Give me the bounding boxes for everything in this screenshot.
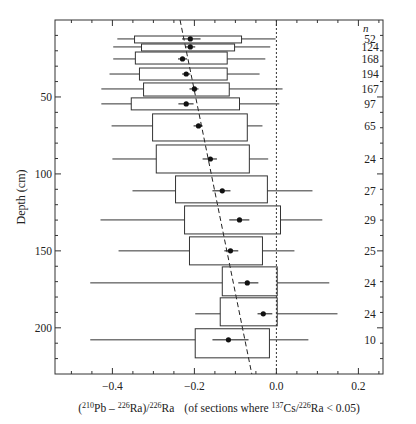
y-tick-label: 200 [35, 322, 53, 334]
y-tick-label: 100 [35, 168, 53, 180]
mean-point [228, 248, 233, 253]
x-tick-label: 0.2 [351, 380, 366, 392]
n-label: 65 [364, 120, 376, 132]
x-tick-label: 0.0 [269, 380, 284, 392]
mean-point [208, 156, 213, 161]
n-label: 10 [364, 334, 376, 346]
n-column-header: n [363, 22, 369, 34]
mean-point [226, 337, 231, 342]
n-label: 24 [364, 153, 376, 165]
n-label: 168 [361, 53, 379, 65]
n-label: 194 [361, 68, 379, 80]
y-tick-label: 150 [35, 245, 53, 257]
mean-point [184, 101, 189, 106]
mean-point [184, 71, 189, 76]
mean-point [192, 86, 197, 91]
n-label: 124 [361, 41, 379, 53]
mean-point [261, 311, 266, 316]
mean-point [237, 217, 242, 222]
mean-point [220, 188, 225, 193]
mean-point [180, 56, 185, 61]
n-label: 25 [364, 245, 376, 257]
mean-point [188, 44, 193, 49]
chart: −0.4−0.20.00.250100150200 52124168194167… [0, 0, 416, 424]
n-label: 29 [364, 214, 376, 226]
x-tick-label: −0.4 [102, 380, 123, 392]
n-label: 24 [364, 308, 376, 320]
n-label: 27 [364, 185, 376, 197]
mean-point [196, 123, 201, 128]
n-label: 167 [361, 83, 379, 95]
x-tick-label: −0.2 [184, 380, 205, 392]
mean-point [188, 36, 193, 41]
n-label: 97 [364, 98, 376, 110]
y-tick-label: 50 [41, 91, 53, 103]
mean-point [245, 280, 250, 285]
n-label: 24 [364, 277, 376, 289]
y-axis-label: Depth (cm) [14, 170, 28, 225]
